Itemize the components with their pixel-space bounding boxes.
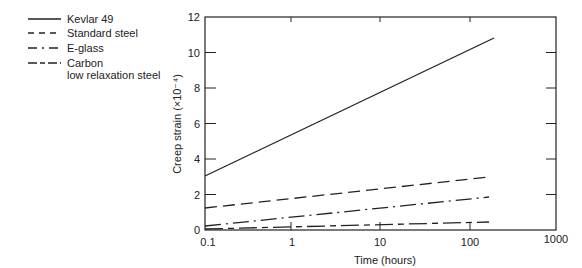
series-e-glass <box>205 197 489 226</box>
y-tick-labels: 0 2 4 6 8 10 12 <box>188 11 200 236</box>
x-tick-1: 1 <box>289 236 295 248</box>
series-kevlar-49 <box>205 38 494 176</box>
y-axis-label: Creep strain (×10⁻⁴) <box>171 74 183 174</box>
y-tick-10: 10 <box>188 47 200 59</box>
x-tick-labels: 0.1 1 10 100 1000 <box>200 233 568 248</box>
y-tick-0: 0 <box>194 224 200 236</box>
y-tick-12: 12 <box>188 11 200 23</box>
series-carbon-low-relaxation-steel <box>205 222 489 229</box>
series-standard-steel <box>205 177 489 208</box>
x-tick-0.1: 0.1 <box>200 236 215 248</box>
x-axis-label: Time (hours) <box>354 254 416 266</box>
legend-label-e-glass: E-glass <box>67 42 104 54</box>
y-tick-2: 2 <box>194 189 200 201</box>
legend-label-carbon: Carbon <box>67 57 103 69</box>
legend-label-standard-steel: Standard steel <box>67 27 138 39</box>
x-tick-100: 100 <box>461 236 479 248</box>
y-ticks <box>205 17 556 230</box>
y-tick-4: 4 <box>194 153 200 165</box>
legend-label-low-relaxation-steel: low relaxation steel <box>67 69 161 81</box>
legend: Kevlar 49 Standard steel E-glass Carbon … <box>28 13 161 81</box>
x-tick-10: 10 <box>374 236 386 248</box>
x-tick-1000: 1000 <box>544 233 568 245</box>
y-tick-8: 8 <box>194 82 200 94</box>
y-tick-6: 6 <box>194 118 200 130</box>
legend-label-kevlar: Kevlar 49 <box>67 13 113 25</box>
series-lines <box>205 38 494 229</box>
plot-frame <box>205 17 556 230</box>
creep-chart: 0 2 4 6 8 10 12 0.1 1 10 100 1000 Time (… <box>0 0 582 268</box>
